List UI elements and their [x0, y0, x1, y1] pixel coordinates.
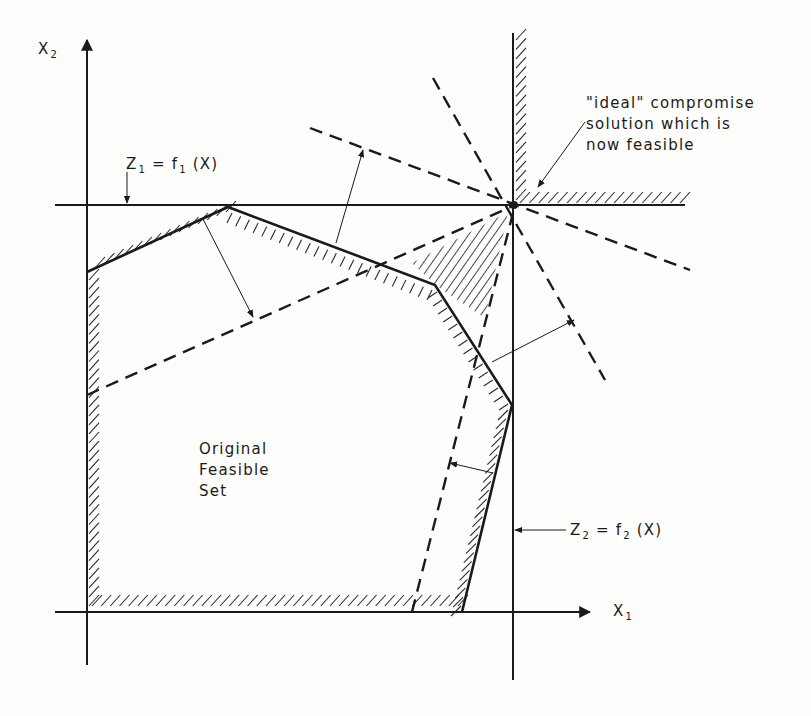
hatch-tick	[229, 595, 239, 606]
hatch-tick	[89, 568, 99, 579]
hatch-tick	[516, 180, 526, 191]
hatch-tick	[312, 595, 322, 606]
hatch-tick	[455, 588, 465, 598]
hatch-tick	[165, 595, 175, 606]
z1-equation-label: Z1 = f1 (X)	[126, 157, 218, 172]
x1-axis-label: X1	[613, 604, 633, 619]
hatch-tick	[384, 273, 389, 283]
hatch-tick	[453, 332, 462, 338]
hatch-tick	[516, 85, 526, 96]
hatch-tick	[403, 595, 413, 606]
hatch-tick	[184, 595, 194, 606]
hatch-tick	[302, 595, 312, 606]
z2-equation-label: Z2 = f2 (X)	[570, 523, 662, 538]
hatch-tick	[89, 450, 99, 461]
hatch-tick	[642, 192, 652, 203]
hatch-tick	[323, 250, 328, 260]
hatch-tick	[494, 428, 504, 438]
hatch-tick	[475, 508, 485, 518]
hatch-tick	[89, 287, 99, 298]
hatch-tick	[266, 595, 276, 606]
hatch-tick	[89, 323, 99, 334]
hatch-tick	[624, 192, 634, 203]
hatch-tick	[481, 481, 491, 491]
x2-axis-label: X2	[38, 42, 58, 57]
shift-arrow-4	[450, 463, 493, 473]
hatch-tick	[101, 595, 111, 606]
hatch-tick	[305, 243, 310, 253]
hatch-tick	[605, 192, 615, 203]
hatch-tick	[489, 388, 498, 394]
hatch-tick	[262, 226, 267, 236]
hatch-tick	[331, 253, 336, 263]
hatch-tick	[89, 369, 99, 380]
hatch-tick	[671, 192, 681, 203]
original-feasible-set-label: Original Feasible Set	[199, 439, 319, 502]
hatch-tick	[138, 595, 148, 606]
hatch-tick	[89, 278, 99, 289]
hatch-tick	[314, 246, 319, 256]
hatch-tick	[220, 595, 230, 606]
hatch-tick	[448, 324, 457, 330]
hatch-tick	[236, 216, 241, 226]
hatch-tick	[89, 351, 99, 362]
hatch-tick	[431, 595, 441, 606]
hatch-tick	[460, 570, 470, 580]
hatch-tick	[479, 372, 488, 378]
hatch-tick	[516, 48, 526, 59]
hatch-tick	[89, 396, 99, 407]
hatch-tick	[89, 432, 99, 443]
hatch-tick	[401, 280, 406, 290]
hatch-tick	[248, 595, 258, 606]
hatch-tick	[89, 577, 99, 588]
hatch-tick	[129, 595, 139, 606]
hatch-tick	[433, 300, 442, 306]
hatch-tick	[89, 504, 99, 515]
hatch-tick	[89, 405, 99, 416]
hatch-tick	[89, 486, 99, 497]
hatch-tick	[89, 514, 99, 525]
hatch-tick	[516, 133, 526, 144]
hatch-tick	[348, 595, 358, 606]
hatch-tick	[89, 332, 99, 343]
hatch-tick	[288, 236, 293, 246]
hatch-tick	[367, 595, 377, 606]
hatch-tick	[410, 283, 415, 293]
hatch-tick	[293, 595, 303, 606]
hatch-tick	[529, 192, 539, 203]
hatch-tick	[516, 67, 526, 78]
hatch-tick	[89, 550, 99, 561]
ideal-solution-annotation: "ideal" compromise solution which is now…	[586, 93, 806, 156]
hatch-tick	[110, 595, 120, 606]
hatch-tick	[89, 314, 99, 325]
hatch-tick	[464, 553, 474, 563]
hatch-tick	[321, 595, 331, 606]
hatch-tick	[119, 595, 129, 606]
hatch-tick	[427, 290, 432, 300]
hatch-tick	[375, 270, 380, 280]
hatch-tick	[89, 468, 99, 479]
shift-arrow-1	[203, 219, 253, 317]
newly-feasible-region	[412, 212, 508, 318]
hatch-tick	[279, 233, 284, 243]
hatch-tick	[516, 95, 526, 106]
hatch-tick	[516, 29, 526, 40]
hatch-tick	[89, 586, 99, 597]
hatch-tick	[156, 595, 166, 606]
hatch-tick	[516, 142, 526, 153]
hatch-tick	[440, 595, 450, 606]
hatch-tick	[558, 192, 568, 203]
hatch-tick	[392, 277, 397, 287]
hatch-tick	[498, 410, 508, 420]
hatch-tick	[595, 192, 605, 203]
hatch-tick	[516, 114, 526, 125]
hatch-tick	[516, 161, 526, 172]
hatch-tick	[284, 595, 294, 606]
hatch-tick	[238, 595, 248, 606]
hatch-tick	[297, 240, 302, 250]
ideal-point-marker	[510, 201, 518, 209]
hatch-tick	[89, 360, 99, 371]
hatch-tick	[477, 499, 487, 509]
hatch-tick	[466, 544, 476, 554]
hatch-tick	[89, 523, 99, 534]
